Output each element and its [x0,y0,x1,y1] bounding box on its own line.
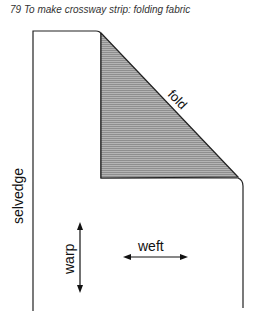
warp-arrow-icon [77,222,83,293]
weft-label: weft [137,238,164,254]
folded-triangle [101,33,238,178]
fabric-diagram: fold selvedge warp weft [0,0,269,325]
weft-arrow-icon [123,254,188,260]
warp-label: warp [61,243,77,275]
selvedge-label: selvedge [10,168,26,224]
